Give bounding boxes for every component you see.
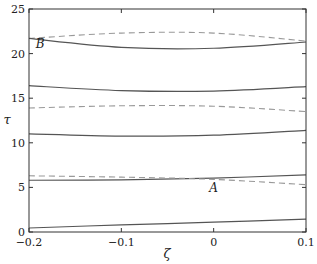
y-tick-label: 15 — [11, 92, 25, 105]
y-tick-label: 0 — [18, 226, 25, 239]
series-solid-1 — [29, 219, 306, 228]
annotations: AB — [35, 37, 219, 195]
y-tick-labels: 0510152025 — [11, 3, 25, 239]
annotation-a: A — [208, 181, 218, 195]
series-solid-3 — [29, 130, 306, 136]
series-dashed-2 — [29, 106, 306, 112]
annotation-b: B — [35, 37, 45, 51]
x-tick-label: 0.1 — [297, 236, 315, 249]
series-solid-2 — [29, 175, 306, 180]
x-axis-label: ζ — [163, 246, 171, 261]
x-tick-label: 0 — [210, 236, 217, 249]
series-solid-5 — [29, 38, 306, 48]
y-tick-label: 10 — [11, 137, 25, 150]
chart: −0.2−0.100.1 0510152025 ζ τ AB — [0, 0, 317, 264]
series-dashed-3 — [29, 32, 306, 41]
y-tick-label: 5 — [18, 181, 25, 194]
series-solid-4 — [29, 86, 306, 92]
plot-lines — [29, 32, 306, 228]
y-tick-label: 25 — [11, 3, 25, 16]
y-tick-label: 20 — [11, 48, 25, 61]
y-axis-label: τ — [3, 112, 11, 127]
x-tick-label: −0.1 — [108, 236, 135, 249]
